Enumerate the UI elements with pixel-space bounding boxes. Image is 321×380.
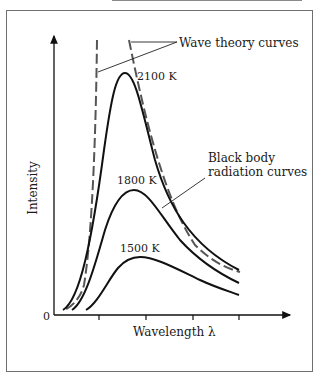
leader-line — [98, 42, 177, 72]
y-axis-label: Intensity — [26, 161, 40, 215]
origin-label: 0 — [43, 310, 50, 323]
label-1500k: 1500 K — [120, 242, 160, 255]
x-axis-label: Wavelength λ — [133, 325, 216, 339]
label-2100k: 2100 K — [137, 70, 177, 83]
curve-2100k — [63, 73, 239, 310]
blackbody-chart: Wave theory curves 2100 K 1800 K 1500 K … — [0, 0, 321, 380]
label-1800k: 1800 K — [117, 174, 157, 187]
black-body-label-line1: Black body — [208, 151, 275, 165]
black-body-label-line2: radiation curves — [208, 165, 307, 179]
wave-theory-curve-short — [64, 40, 97, 310]
curve-1500k — [86, 257, 239, 310]
wave-theory-label: Wave theory curves — [179, 36, 299, 50]
